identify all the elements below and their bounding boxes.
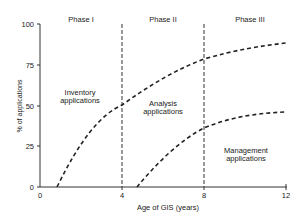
x-tick-0: 0 [38,191,42,200]
y-tick-labels: 100 75 50 25 0 [21,20,34,192]
chart: 100 75 50 25 0 0 4 8 12 Age of GIS (year… [0,0,303,222]
x-axis-label: Age of GIS (years) [137,203,200,212]
y-tick-100: 100 [21,20,34,29]
phase-3-label: Phase III [235,15,265,24]
y-tick-25: 25 [26,142,34,151]
x-tick-labels: 0 4 8 12 [38,191,290,200]
y-tick-75: 75 [26,61,34,70]
region-labels: Inventory applications Analysis applicat… [60,88,269,163]
phase-labels: Phase I Phase II Phase III [68,15,265,24]
phase-2-label: Phase II [149,15,177,24]
management-label-line2: applications [226,154,266,163]
phase-1-label: Phase I [68,15,93,24]
inventory-label-line2: applications [60,96,100,105]
y-axis-label: % of applications [16,79,24,132]
x-tick-12: 12 [282,191,290,200]
x-tick-4: 4 [120,191,124,200]
x-tick-8: 8 [202,191,206,200]
y-tick-50: 50 [26,102,34,111]
analysis-label-line2: applications [143,107,183,116]
y-tick-0: 0 [30,183,34,192]
